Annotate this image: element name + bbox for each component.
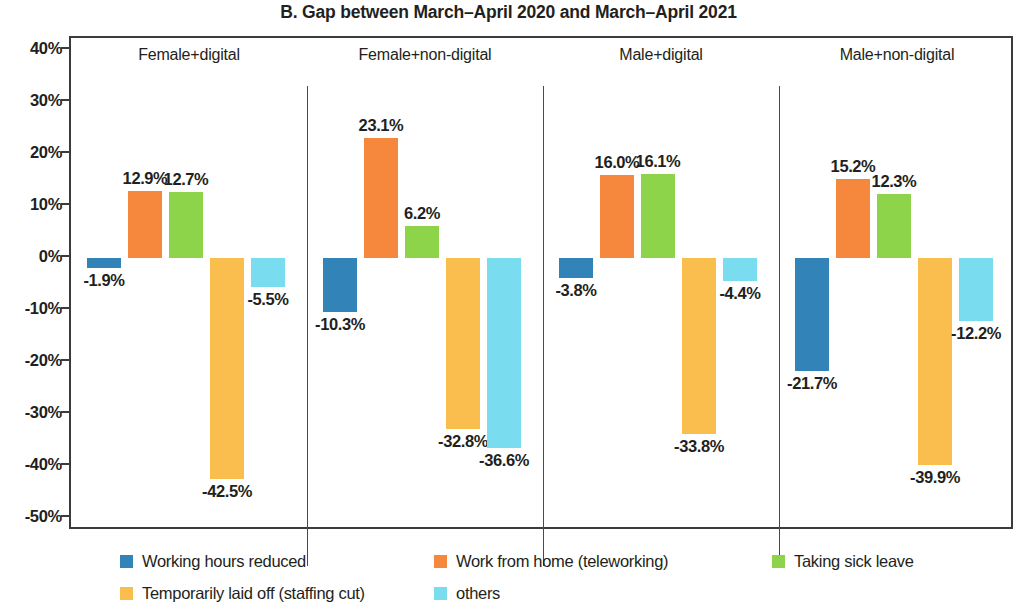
y-axis-tick-label: 20% [30, 143, 62, 162]
bar [405, 226, 439, 258]
bar-value-label: -39.9% [910, 468, 960, 487]
bar [682, 258, 716, 434]
bar [210, 258, 244, 479]
panel-female-digital: Female+digital-1.9%12.9%12.7%-42.5%-5.5% [71, 38, 307, 531]
y-axis-tick-label: -10% [25, 299, 62, 318]
bar [87, 258, 121, 268]
panel-male-non-digital: Male+non-digital-21.7%15.2%12.3%-39.9%-1… [779, 38, 1015, 531]
bar-value-label: 6.2% [404, 204, 440, 223]
legend-swatch-icon [120, 587, 133, 600]
bar [169, 192, 203, 258]
panel-title: Female+non-digital [307, 46, 543, 64]
bar-value-label: -10.3% [315, 315, 365, 334]
bar-value-label: -1.9% [83, 271, 124, 290]
legend-label: Temporarily laid off (staffing cut) [142, 584, 365, 603]
legend-swatch-icon [120, 555, 133, 568]
panel-divider [779, 86, 780, 566]
bar [364, 138, 398, 258]
y-axis-tick-label: 10% [30, 195, 62, 214]
panel-female-non-digital: Female+non-digital-10.3%23.1%6.2%-32.8%-… [307, 38, 543, 531]
chart-legend: Working hours reducedWork from home (tel… [0, 548, 1017, 615]
bar-value-label: 23.1% [359, 116, 404, 135]
legend-label: others [456, 584, 500, 603]
bar-value-label: -32.8% [438, 432, 488, 451]
bar-value-label: -12.2% [951, 324, 1001, 343]
bar [323, 258, 357, 312]
legend-label: Taking sick leave [794, 552, 914, 571]
legend-item[interactable]: others [434, 584, 500, 603]
bar [559, 258, 593, 278]
bar-value-label: -21.7% [787, 374, 837, 393]
bar-value-label: -5.5% [247, 290, 288, 309]
y-axis-tick-label: -30% [25, 403, 62, 422]
bar-value-label: -4.4% [719, 284, 760, 303]
bar-value-label: -42.5% [202, 482, 252, 501]
y-axis-tick-label: -20% [25, 351, 62, 370]
y-axis-tick-label: 40% [30, 39, 62, 58]
bar [128, 191, 162, 258]
bar [251, 258, 285, 287]
chart-title: B. Gap between March–April 2020 and Marc… [0, 2, 1017, 23]
panel-male-digital: Male+digital-3.8%16.0%16.1%-33.8%-4.4% [543, 38, 779, 531]
bar [487, 258, 521, 448]
y-axis-tick-label: 0% [39, 247, 62, 266]
y-axis-tick-label: -50% [25, 507, 62, 526]
panel-divider [307, 86, 308, 566]
plot-area: Female+digital-1.9%12.9%12.7%-42.5%-5.5%… [69, 36, 1013, 529]
panel-divider [543, 86, 544, 566]
legend-label: Working hours reduced [142, 552, 306, 571]
legend-item[interactable]: Temporarily laid off (staffing cut) [120, 584, 365, 603]
bar [959, 258, 993, 321]
bar [600, 175, 634, 258]
legend-swatch-icon [434, 587, 447, 600]
legend-swatch-icon [434, 555, 447, 568]
bar-value-label: 16.1% [636, 152, 681, 171]
bar [446, 258, 480, 429]
legend-item[interactable]: Working hours reduced [120, 552, 306, 571]
figure-panel-b: B. Gap between March–April 2020 and Marc… [0, 0, 1017, 615]
y-axis-tick-label: 30% [30, 91, 62, 110]
y-axis-tick-label: -40% [25, 455, 62, 474]
bar [795, 258, 829, 371]
panel-title: Female+digital [71, 46, 307, 64]
legend-item[interactable]: Taking sick leave [772, 552, 914, 571]
bar-value-label: 12.9% [123, 169, 168, 188]
legend-item[interactable]: Work from home (teleworking) [434, 552, 668, 571]
bar-value-label: 12.3% [872, 172, 917, 191]
bar [723, 258, 757, 281]
panel-title: Male+non-digital [779, 46, 1015, 64]
bar-value-label: -3.8% [555, 281, 596, 300]
legend-swatch-icon [772, 555, 785, 568]
bar-value-label: -33.8% [674, 437, 724, 456]
bar [836, 179, 870, 258]
bar [918, 258, 952, 465]
bar-value-label: 16.0% [595, 153, 640, 172]
y-axis: 40%30%20%10%0%-10%-20%-30%-40%-50% [0, 36, 62, 529]
bar-value-label: -36.6% [479, 451, 529, 470]
bar [877, 194, 911, 258]
panel-title: Male+digital [543, 46, 779, 64]
bar-value-label: 15.2% [831, 157, 876, 176]
bar-value-label: 12.7% [164, 170, 209, 189]
bar [641, 174, 675, 258]
legend-label: Work from home (teleworking) [456, 552, 668, 571]
